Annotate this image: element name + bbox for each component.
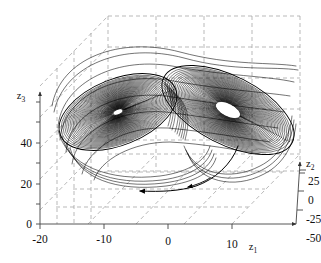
z1-tick-label-neg20: -20 [32, 233, 48, 245]
z2-axis-label: z2 [306, 158, 315, 172]
z2-tick-label-neg25: -25 [306, 213, 321, 225]
left-wall-grid [40, 16, 108, 224]
z3-tick-label-40: 40 [21, 137, 33, 149]
z2-tick-label-0: 0 [308, 194, 314, 206]
floor-grid [56, 154, 300, 224]
z3-tick-label-20: 20 [21, 178, 33, 190]
lower-rim-arcs [58, 116, 296, 187]
z3-tick-label-0: 0 [26, 218, 32, 230]
flow-annotation-path [140, 146, 238, 191]
z3-axis-label: z3 [17, 90, 26, 104]
z1-tick-label-neg10: -10 [96, 233, 112, 245]
lorenz-attractor-figure: 0 20 40 -20 -10 0 10 25 0 -25 -50 z3 z1 [0, 0, 321, 263]
z1-tick-label-10: 10 [226, 238, 238, 250]
z1-axis-label: z1 [249, 241, 258, 255]
z2-tick-label-25: 25 [308, 175, 320, 187]
plot-canvas: 0 20 40 -20 -10 0 10 25 0 -25 -50 z3 z1 [0, 0, 321, 263]
z2-tick-label-neg50: -50 [306, 232, 321, 244]
lorenz-trajectory [48, 47, 307, 192]
z1-tick-label-0: 0 [165, 235, 171, 247]
